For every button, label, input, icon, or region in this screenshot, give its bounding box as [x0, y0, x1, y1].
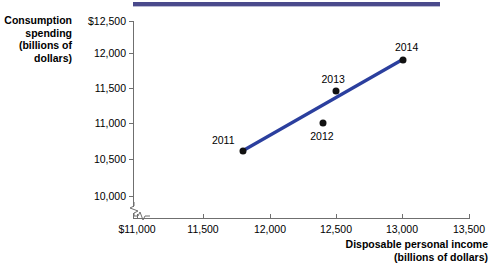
- x-tick-label-13000: 13,000: [386, 223, 418, 235]
- data-point-label-2011: 2011: [212, 134, 235, 146]
- x-tick-label-11000: $11,000: [118, 223, 155, 235]
- consumption-function-chart: Consumption spending (billions of dollar…: [0, 0, 495, 268]
- y-axis-line: [133, 21, 134, 207]
- x-axis-line: [133, 218, 470, 219]
- x-tick-label-11500: 11,500: [187, 223, 218, 235]
- y-axis-title-line-2: spending: [0, 27, 72, 40]
- y-tick-label-11500: 11,500: [6, 82, 126, 94]
- y-tick-label-12000: 12,000: [6, 47, 126, 59]
- y-tick-10000: [129, 196, 134, 197]
- y-tick-11000: [129, 123, 134, 124]
- y-tick-label-12500: $12,500: [6, 15, 126, 27]
- y-tick-10500: [129, 159, 134, 160]
- x-tick-12500: [336, 214, 337, 219]
- x-axis-title-line-1: Disposable personal income: [290, 238, 488, 251]
- x-tick-12000: [270, 214, 271, 219]
- data-point-2013[interactable]: [333, 88, 340, 95]
- x-tick-label-12500: 12,500: [320, 223, 352, 235]
- y-tick-label-10000: 10,000: [6, 190, 126, 202]
- y-tick-label-11000: 11,000: [6, 117, 126, 129]
- x-tick-13000: [402, 214, 403, 219]
- data-point-label-2014: 2014: [395, 41, 418, 53]
- trend-line: [0, 0, 495, 268]
- data-point-label-2013: 2013: [322, 73, 345, 85]
- data-point-label-2012: 2012: [310, 130, 333, 142]
- x-tick-label-13500: 13,500: [453, 223, 485, 235]
- top-rule-decoration: [133, 2, 440, 7]
- x-tick-11000: [137, 214, 138, 219]
- y-tick-12500: [129, 21, 134, 22]
- x-tick-11500: [203, 214, 204, 219]
- data-point-2012[interactable]: [319, 119, 326, 126]
- x-tick-13500: [469, 214, 470, 219]
- y-tick-12000: [129, 53, 134, 54]
- x-axis-title: Disposable personal income (billions of …: [290, 238, 488, 264]
- y-tick-label-10500: 10,500: [6, 153, 126, 165]
- data-point-2011[interactable]: [240, 147, 247, 154]
- data-point-2014[interactable]: [399, 56, 406, 63]
- x-tick-label-12000: 12,000: [254, 223, 286, 235]
- y-tick-11500: [129, 88, 134, 89]
- x-axis-title-line-2: (billions of dollars): [290, 251, 488, 264]
